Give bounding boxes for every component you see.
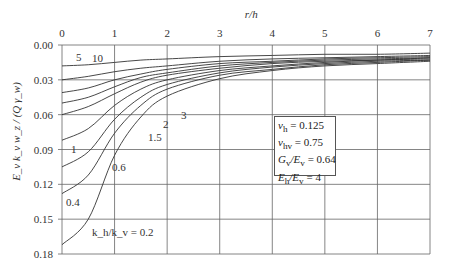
legend-nu-hv: νhv = 0.75 bbox=[278, 136, 332, 153]
y-tick-label: 0.15 bbox=[34, 213, 54, 225]
y-tick-label: 0.06 bbox=[34, 109, 54, 121]
x-tick-label: 3 bbox=[217, 27, 223, 39]
x-tick-label: 4 bbox=[270, 27, 276, 39]
curve-label: 1.5 bbox=[148, 131, 162, 143]
curve-label: 5 bbox=[76, 51, 82, 63]
curve-label: k_h/k_v = 0.2 bbox=[92, 226, 154, 238]
curve-label: 10 bbox=[92, 52, 104, 64]
curve-label: 0.6 bbox=[112, 161, 126, 173]
chart: 012345670.000.030.060.090.120.150.18r/hE… bbox=[0, 0, 450, 274]
x-tick-label: 2 bbox=[164, 27, 170, 39]
curve-label: 3 bbox=[181, 109, 187, 121]
x-tick-label: 7 bbox=[427, 27, 433, 39]
y-tick-label: 0.12 bbox=[34, 178, 53, 190]
curve-label: 2 bbox=[163, 118, 169, 130]
y-tick-label: 0.09 bbox=[34, 144, 54, 156]
x-tick-label: 1 bbox=[112, 27, 118, 39]
legend-box: νh = 0.125 νhv = 0.75 Gv/Ev = 0.64 Eh/Ev… bbox=[274, 116, 336, 176]
x-axis-label: r/h bbox=[245, 8, 258, 20]
legend-e-ratio: Eh/Ev = 4 bbox=[278, 171, 332, 188]
y-axis-label: E_v k_v w_z / (Q γ_w) bbox=[10, 82, 23, 182]
x-tick-label: 6 bbox=[375, 27, 381, 39]
legend-nu-h: νh = 0.125 bbox=[278, 119, 332, 136]
curve-line bbox=[62, 58, 430, 103]
y-tick-label: 0.18 bbox=[34, 248, 54, 260]
legend-g-ratio: Gv/Ev = 0.64 bbox=[278, 153, 332, 170]
curve-label: 1 bbox=[71, 143, 77, 155]
x-tick-label: 5 bbox=[322, 27, 328, 39]
y-tick-label: 0.00 bbox=[34, 39, 54, 51]
y-tick-label: 0.03 bbox=[34, 74, 54, 86]
curve-line bbox=[62, 61, 430, 244]
x-tick-label: 0 bbox=[59, 27, 65, 39]
curve-label: 0.4 bbox=[66, 196, 80, 208]
